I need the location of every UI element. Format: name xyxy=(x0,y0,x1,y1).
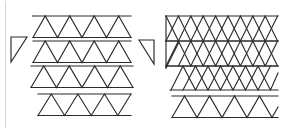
left-half-triangle xyxy=(11,37,27,62)
triangle-tiling-diagram xyxy=(0,0,288,129)
strip-row-2 xyxy=(31,66,133,88)
geometry-figure-canvas xyxy=(0,0,288,129)
strip-row-0 xyxy=(33,16,131,38)
lattice-left-notch xyxy=(166,16,179,68)
strip-row-1 xyxy=(33,41,131,63)
lattice-row-2 xyxy=(166,66,278,90)
lattice-row-0 xyxy=(166,16,278,41)
right-half-triangle xyxy=(139,40,154,64)
right-lattice-group xyxy=(166,16,278,118)
strip-row-3 xyxy=(38,94,131,116)
lattice-row-1 xyxy=(166,41,278,66)
left-strip-group xyxy=(31,16,133,116)
lattice-row-3 xyxy=(172,96,278,118)
